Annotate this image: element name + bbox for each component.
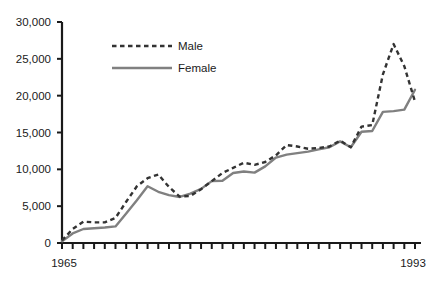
y-axis-tick-label: 30,000	[16, 16, 51, 28]
series-line-male	[62, 44, 415, 240]
y-axis-tick-label: 20,000	[16, 90, 51, 102]
y-axis-tick-label: 5,000	[22, 200, 51, 212]
data-series-group	[62, 44, 415, 241]
chart-legend: MaleFemale	[112, 40, 216, 74]
x-axis	[62, 243, 421, 249]
y-axis: 05,00010,00015,00020,00025,00030,000	[16, 16, 62, 249]
x-axis-end-label: 1993	[400, 257, 426, 269]
legend-label-male: Male	[178, 40, 203, 52]
x-axis-labels: 19651993	[51, 257, 426, 269]
y-axis-tick-label: 25,000	[16, 53, 51, 65]
y-axis-tick-label: 10,000	[16, 163, 51, 175]
chart-container: 05,00010,00015,00020,00025,00030,000 Mal…	[0, 0, 441, 282]
y-axis-tick-label: 0	[45, 237, 51, 249]
y-axis-tick-label: 15,000	[16, 127, 51, 139]
series-line-female	[62, 90, 415, 241]
line-chart-plot: 05,00010,00015,00020,00025,00030,000 Mal…	[0, 0, 441, 282]
legend-label-female: Female	[178, 62, 216, 74]
x-axis-start-label: 1965	[51, 257, 77, 269]
